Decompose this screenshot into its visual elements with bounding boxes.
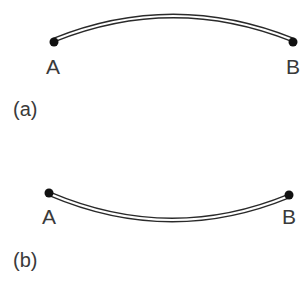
panel-a-point-b [289, 38, 298, 47]
panel-b-label-b: B [282, 206, 296, 227]
diagram-canvas [0, 0, 304, 292]
panel-b-point-b [285, 191, 294, 200]
panel-b-caption: (b) [13, 250, 37, 270]
panel-a-point-a [50, 38, 59, 47]
panel-a-label-b: B [286, 56, 300, 77]
panel-a-label-a: A [46, 56, 60, 77]
panel-b-label-a: A [42, 206, 56, 227]
panel-a-caption: (a) [13, 99, 37, 119]
panel-b-point-a [45, 189, 54, 198]
panel-b-arc [50, 194, 289, 220]
panel-a-arc [54, 16, 293, 40]
